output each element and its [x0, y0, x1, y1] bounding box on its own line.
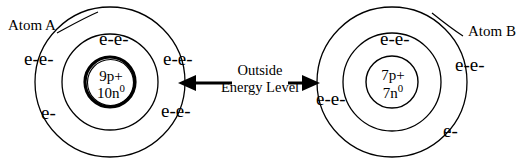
- atom-a-electron-bottom-right: e-e-: [161, 101, 191, 120]
- atom-a-electron-bottom-left: e-: [41, 103, 56, 122]
- atom-a-nucleus-neutrons: 10n0: [91, 86, 131, 101]
- atom-b-electron-left: e-e-: [316, 89, 346, 108]
- atom-b-nucleus-protons: 7p+: [376, 68, 410, 83]
- atom-b-leader-line: [432, 13, 463, 36]
- outside-energy-level-caption: OutsideEnergy Level: [210, 62, 310, 95]
- atom-a-label: Atom A: [8, 18, 56, 33]
- atom-a-neutron-value: 10n: [97, 85, 120, 101]
- atom-b-nucleus-neutrons: 7n0: [376, 86, 410, 101]
- atom-b-neutron-value: 7n: [383, 85, 398, 101]
- atom-diagram: Atom A e-e- e-e- e-e- e- e-e- 9p+ 10n0 O…: [0, 0, 526, 164]
- atom-b-electron-top: e-e-: [380, 29, 410, 48]
- caption-line-1: Outside: [237, 62, 282, 78]
- atom-a-leader-line: [57, 12, 98, 33]
- atom-b-label: Atom B: [468, 24, 516, 39]
- atom-a-neutron-charge: 0: [120, 82, 125, 94]
- atom-a-electron-top: e-e-: [99, 29, 129, 48]
- atom-b-electron-right: e-e-: [455, 55, 485, 74]
- caption-line-2: Energy Level: [221, 79, 299, 95]
- atom-b-neutron-charge: 0: [398, 82, 403, 94]
- atom-a-electron-left: e-e-: [24, 49, 54, 68]
- atom-a-electron-right: e-e-: [163, 49, 193, 68]
- atom-b-electron-bottom-right: e-: [443, 121, 458, 140]
